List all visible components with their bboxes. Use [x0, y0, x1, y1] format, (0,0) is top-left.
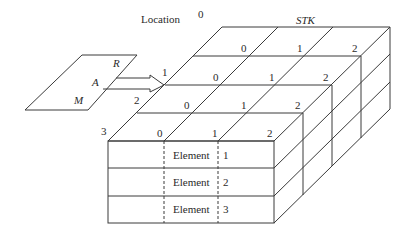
- element-index: 3: [223, 203, 229, 215]
- svg-text:2: 2: [323, 71, 329, 83]
- stack-diagram: R A M Location STK: [0, 0, 410, 236]
- location-title: Location: [141, 13, 181, 25]
- svg-text:0: 0: [184, 99, 190, 111]
- element-row-2: Element 2: [173, 176, 229, 188]
- svg-text:2: 2: [352, 42, 358, 54]
- location-label-2: 2: [134, 94, 140, 106]
- element-index: 1: [223, 149, 229, 161]
- register-label-m: M: [73, 94, 84, 106]
- element-label: Element: [173, 149, 210, 161]
- location-label-1: 1: [162, 66, 168, 78]
- column-labels-layer-3: 0 1 2: [157, 127, 273, 139]
- register-ram: R A M: [25, 55, 137, 110]
- svg-text:1: 1: [269, 71, 275, 83]
- svg-text:0: 0: [213, 71, 219, 83]
- svg-text:2: 2: [295, 99, 301, 111]
- svg-text:1: 1: [241, 99, 247, 111]
- location-label-0: 0: [198, 8, 204, 20]
- location-label-3: 3: [101, 125, 107, 137]
- column-labels-layer-1: 0 1 2: [213, 71, 329, 83]
- element-label: Element: [173, 176, 210, 188]
- svg-text:1: 1: [212, 127, 218, 139]
- column-labels-layer-2: 0 1 2: [184, 99, 301, 111]
- svg-text:2: 2: [267, 127, 273, 139]
- svg-text:0: 0: [157, 127, 163, 139]
- svg-text:0: 0: [241, 42, 247, 54]
- element-row-1: Element 1: [173, 149, 229, 161]
- svg-text:1: 1: [297, 42, 303, 54]
- register-label-a: A: [91, 76, 99, 88]
- register-label-r: R: [112, 57, 120, 69]
- element-label: Element: [173, 203, 210, 215]
- element-index: 2: [223, 176, 229, 188]
- stk-title: STK: [296, 14, 316, 26]
- column-labels-layer-0: 0 1 2: [241, 42, 358, 54]
- element-row-3: Element 3: [173, 203, 229, 215]
